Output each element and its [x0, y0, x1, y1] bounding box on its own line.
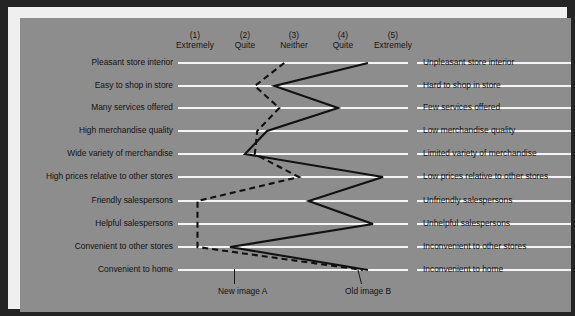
figure-outer-frame: (1)Extremely(2)Quite(3)Neither(4)Quite(5… [0, 0, 575, 316]
semantic-differential-chart: (1)Extremely(2)Quite(3)Neither(4)Quite(5… [20, 18, 571, 312]
legend-label-new-image-a: New image A [218, 286, 267, 296]
series-plot-area [20, 18, 571, 312]
figure-inner-border: (1)Extremely(2)Quite(3)Neither(4)Quite(5… [8, 7, 567, 309]
legend-leader-new-image-a [234, 269, 235, 284]
legend-label-old-image-b: Old image B [345, 286, 391, 296]
series-line-old-image-b [230, 63, 383, 270]
